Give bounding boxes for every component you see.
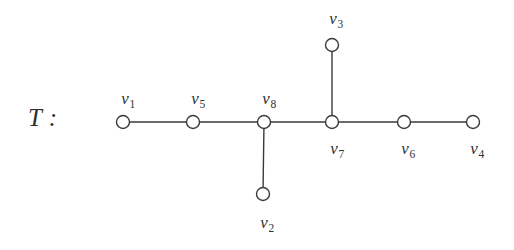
graph-node-v7[interactable] — [326, 116, 339, 129]
graph-node-v4[interactable] — [467, 116, 480, 129]
node-label-subscript-v2: 2 — [268, 222, 274, 234]
node-layer — [117, 39, 480, 201]
graph-node-v3[interactable] — [326, 39, 339, 52]
node-label-v2: v2 — [260, 214, 273, 231]
node-label-base-v4: v — [470, 139, 478, 158]
node-label-base-v8: v — [262, 89, 270, 108]
node-label-subscript-v6: 6 — [409, 148, 415, 160]
node-label-subscript-v7: 7 — [338, 148, 344, 160]
node-label-base-v2: v — [260, 213, 268, 232]
graph-edge-v8-v2 — [263, 128, 264, 187]
graph-svg — [0, 0, 514, 250]
node-label-subscript-v5: 5 — [199, 98, 205, 110]
node-label-subscript-v8: 8 — [270, 98, 276, 110]
node-label-v7: v7 — [330, 140, 343, 157]
graph-node-v6[interactable] — [398, 116, 411, 129]
figure-canvas: T : v1v5v8v7v6v4v3v2 — [0, 0, 514, 250]
node-label-base-v6: v — [401, 139, 409, 158]
node-label-v5: v5 — [191, 90, 204, 107]
node-label-subscript-v4: 4 — [478, 148, 484, 160]
graph-node-v1[interactable] — [117, 116, 130, 129]
graph-node-v8[interactable] — [258, 116, 271, 129]
node-label-base-v1: v — [121, 89, 129, 108]
node-label-v3: v3 — [329, 10, 342, 27]
node-label-subscript-v1: 1 — [129, 98, 135, 110]
node-label-v8: v8 — [262, 90, 275, 107]
node-label-base-v3: v — [329, 9, 337, 28]
edge-layer — [130, 52, 467, 188]
node-label-base-v7: v — [330, 139, 338, 158]
node-label-v4: v4 — [470, 140, 483, 157]
graph-node-v5[interactable] — [187, 116, 200, 129]
node-label-v1: v1 — [121, 90, 134, 107]
node-label-base-v5: v — [191, 89, 199, 108]
node-label-v6: v6 — [401, 140, 414, 157]
node-label-subscript-v3: 3 — [337, 18, 343, 30]
graph-node-v2[interactable] — [257, 188, 270, 201]
